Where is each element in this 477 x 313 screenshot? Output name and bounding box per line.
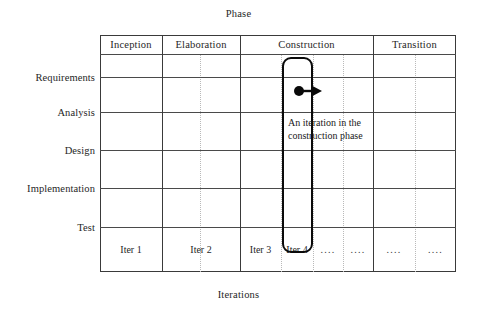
- row-separator-implementation: [100, 188, 456, 189]
- row-separator-analysis: [100, 112, 456, 113]
- rup-phase-iteration-diagram: Phase Requirements Analysis Design Imple…: [0, 0, 477, 313]
- iteration-label-6: ....: [343, 227, 373, 272]
- iteration-label-5: ....: [313, 227, 343, 272]
- row-separator-design: [100, 150, 456, 151]
- phase-header-inception: Inception: [100, 36, 162, 54]
- phase-header-transition: Transition: [373, 36, 456, 54]
- annotation-text: An iteration in the construction phase: [288, 116, 408, 142]
- row-label-requirements: Requirements: [35, 72, 95, 83]
- row-separator-header: [100, 54, 456, 55]
- row-label-implementation: Implementation: [27, 183, 95, 194]
- iteration-label-8: ....: [415, 227, 456, 272]
- dot-arrow-right-icon: [292, 82, 324, 100]
- row-label-analysis: Analysis: [57, 107, 95, 118]
- phase-axis-title: Phase: [0, 8, 477, 19]
- iteration-label-2: Iter 2: [162, 227, 240, 272]
- iteration-label-7: ....: [373, 227, 415, 272]
- phase-header-construction: Construction: [240, 36, 373, 54]
- iteration-label-1: Iter 1: [100, 227, 162, 272]
- row-label-test: Test: [77, 222, 95, 233]
- row-separator-requirements: [100, 77, 456, 78]
- iteration-label-3: Iter 3: [240, 227, 281, 272]
- phase-header-elaboration: Elaboration: [162, 36, 240, 54]
- iterations-axis-title: Iterations: [0, 289, 477, 300]
- row-label-design: Design: [65, 145, 95, 156]
